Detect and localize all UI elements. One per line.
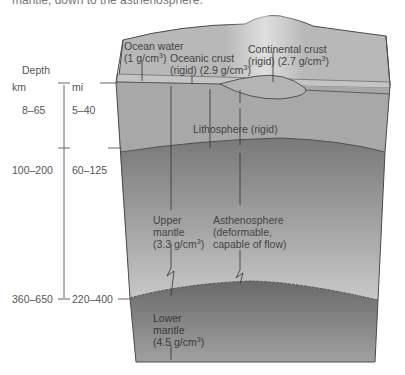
label-oceanic-crust: Oceanic crust (rigid) (2.9 g/cm3) <box>170 52 251 76</box>
depth-unit-km: km <box>12 81 26 93</box>
depth-km-3: 360–650 <box>12 293 53 305</box>
label-lower-mantle: Lower mantle (4.5 g/cm3) <box>153 312 204 348</box>
depth-unit-mi: mi <box>72 81 83 93</box>
label-lithosphere: Lithosphere (rigid) <box>193 123 278 135</box>
depth-km-1: 8–65 <box>22 104 45 116</box>
label-continental-crust: Continental crust (rigid) (2.7 g/cm3) <box>248 43 329 67</box>
depth-title: Depth <box>22 64 50 76</box>
label-asthenosphere: Asthenosphere (deformable, capable of fl… <box>213 214 287 250</box>
depth-mi-3: 220–400 <box>72 293 113 305</box>
depth-mi-1: 5–40 <box>72 104 95 116</box>
label-upper-mantle: Upper mantle (3.3 g/cm3) <box>153 214 204 250</box>
depth-mi-2: 60–125 <box>72 164 107 176</box>
depth-km-2: 100–200 <box>12 164 53 176</box>
